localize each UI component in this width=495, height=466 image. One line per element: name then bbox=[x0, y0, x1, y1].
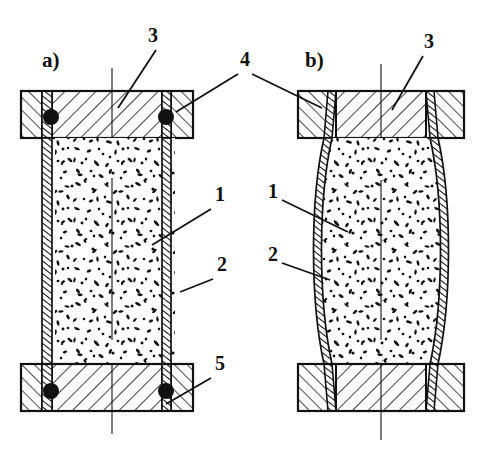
specimen-a-texture-2 bbox=[55, 138, 175, 364]
o-ring-bottom-right bbox=[158, 383, 174, 399]
specimen-b-texture-2 bbox=[310, 138, 455, 364]
panel-b-specimen-group bbox=[310, 138, 455, 364]
callout-b-2: 2 bbox=[268, 243, 278, 266]
callout-a-1: 1 bbox=[215, 183, 225, 206]
callout-b-3: 3 bbox=[424, 30, 434, 53]
o-ring-bottom-left bbox=[43, 383, 59, 399]
callout-a-5: 5 bbox=[215, 352, 225, 375]
clamping-ring-top-left bbox=[21, 91, 42, 138]
o-ring-top-left bbox=[43, 109, 59, 125]
platen-b-bottom-left-shoulder bbox=[298, 364, 328, 411]
panel-a-top-platen-group bbox=[21, 91, 193, 138]
o-ring-top-right bbox=[158, 109, 174, 125]
callout-a-2: 2 bbox=[217, 253, 227, 276]
membrane-a-right bbox=[162, 138, 171, 364]
clamping-ring-bottom-left bbox=[21, 364, 42, 411]
end-platen-bottom bbox=[52, 364, 162, 411]
callout-a-3: 3 bbox=[148, 24, 158, 47]
callout-b-1: 1 bbox=[268, 180, 278, 203]
panel-a-specimen-group bbox=[55, 138, 175, 364]
panel-tag-a: a) bbox=[42, 48, 60, 73]
panel-tag-b: b) bbox=[305, 48, 324, 73]
clamping-ring-bottom-right bbox=[171, 364, 193, 411]
membrane-a-left bbox=[42, 138, 52, 364]
callout-a-4: 4 bbox=[240, 48, 250, 71]
end-platen-top bbox=[52, 91, 162, 138]
clamping-ring-top-right bbox=[171, 91, 193, 138]
